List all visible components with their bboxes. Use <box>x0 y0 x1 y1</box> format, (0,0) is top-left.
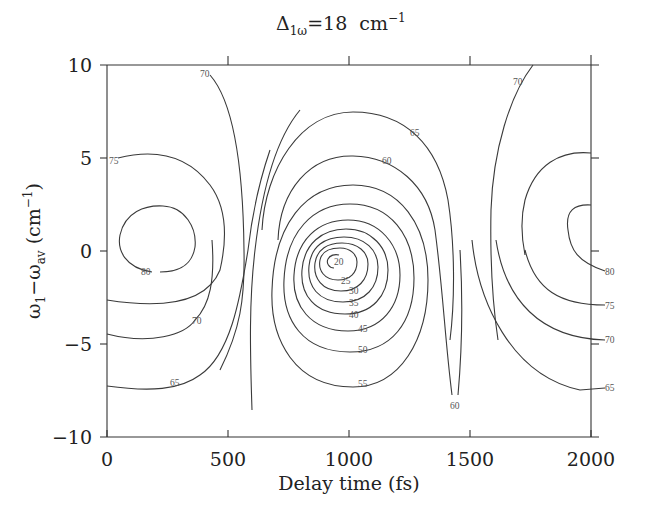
contour-70-right-outer <box>491 65 533 340</box>
contour-label: 60 <box>450 401 460 411</box>
x-tick-1500: 1500 <box>446 448 494 470</box>
y-tick-5: 5 <box>80 147 92 169</box>
x-tick-500: 500 <box>210 448 246 470</box>
contour-label: 75 <box>605 301 615 311</box>
x-axis-title: Delay time (fs) <box>278 472 419 494</box>
contour-70-left-outer <box>210 75 244 370</box>
contour-label: 65 <box>170 378 180 388</box>
title-subscript: 1ω <box>290 24 308 38</box>
contour-label: 65 <box>410 128 420 138</box>
contour-chart: Δ1ω=18 cm−1 0 500 1000 1500 2000 10 <box>0 0 669 520</box>
chart-title: Δ1ω=18 cm−1 <box>276 11 406 38</box>
contour-label: 65 <box>605 383 615 393</box>
contour-label: 80 <box>605 267 615 277</box>
title-superscript: −1 <box>388 11 406 25</box>
svg-text:ω1−ωav (cm−1): ω1−ωav (cm−1) <box>21 183 48 319</box>
contour-label: 30 <box>349 286 359 296</box>
contour-label: 50 <box>358 345 368 355</box>
contour-75-left <box>107 154 224 304</box>
contour-60-right-spur <box>458 250 462 395</box>
contour-label: 70 <box>200 69 210 79</box>
contour-labels: 70 75 80 70 65 65 60 20 25 30 35 40 45 5… <box>109 69 615 411</box>
x-axis-ticks <box>107 56 591 437</box>
y-tick-minus10: −10 <box>52 426 92 448</box>
contour-80-left <box>119 206 195 272</box>
svg-text:Δ1ω=18 cm−1: Δ1ω=18 cm−1 <box>276 11 406 38</box>
contour-label: 35 <box>349 298 359 308</box>
x-tick-0: 0 <box>101 448 113 470</box>
x-tick-2000: 2000 <box>567 448 615 470</box>
contour-70-right-lower <box>496 240 605 340</box>
contour-75-right-lower <box>525 250 605 305</box>
contour-label: 75 <box>109 156 119 166</box>
contour-label: 40 <box>349 310 359 320</box>
y-tick-labels: 10 5 0 −5 −10 <box>52 54 92 448</box>
x-tick-labels: 0 500 1000 1500 2000 <box>101 448 615 470</box>
y-tick-10: 10 <box>68 54 92 76</box>
contour-60-center <box>278 156 452 395</box>
y-tick-0: 0 <box>80 240 92 262</box>
title-delta: Δ <box>276 12 290 34</box>
contour-lines <box>107 65 605 410</box>
contour-label: 60 <box>382 156 392 166</box>
contour-label: 80 <box>141 267 151 277</box>
title-value: =18 cm <box>307 12 388 34</box>
y-tick-minus5: −5 <box>64 333 92 355</box>
contour-label: 55 <box>358 379 368 389</box>
contour-label: 25 <box>341 276 351 286</box>
contour-label: 70 <box>605 335 615 345</box>
contour-label: 45 <box>358 324 368 334</box>
contour-label: 70 <box>192 316 202 326</box>
contour-65-left-lower <box>107 150 270 389</box>
contour-65-right-lower <box>472 240 605 390</box>
contour-80-right <box>567 205 605 271</box>
contour-label: 20 <box>334 257 344 267</box>
y-axis-title: ω1−ωav (cm−1) <box>21 183 48 319</box>
contour-label: 70 <box>513 77 523 87</box>
x-tick-1000: 1000 <box>325 448 373 470</box>
contour-75-right-upper <box>522 153 591 255</box>
